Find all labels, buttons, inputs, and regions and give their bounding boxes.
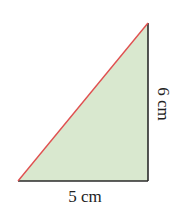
triangle-svg: 5 cm 6 cm	[0, 0, 180, 214]
base-label: 5 cm	[68, 187, 102, 206]
height-label: 6 cm	[154, 87, 173, 121]
triangle-diagram: 5 cm 6 cm	[0, 0, 180, 214]
